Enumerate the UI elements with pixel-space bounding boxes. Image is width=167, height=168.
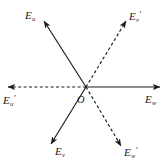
vector-label-e-u-prime-left: Eu′ (3, 94, 15, 107)
origin-label: O (77, 95, 85, 106)
vector-label-e-w-prime-lower-right: Ew′ (124, 146, 138, 159)
vector-label-e-w-right: Ew (145, 94, 156, 106)
vector-line-e-v-prime-upper-right (86, 21, 126, 87)
vector-canvas (0, 0, 167, 168)
vector-line-e-w-prime-lower-right (86, 87, 121, 146)
vector-diagram: Eu Ev′ Eu′ Ew Ev Ew′ O (0, 0, 167, 168)
vector-label-e-v-lower-left: Ev (55, 146, 65, 158)
vector-line-e-u-upper-left (44, 21, 86, 87)
vector-label-e-v-prime-upper-right: Ev′ (129, 10, 141, 23)
vector-label-e-u-upper-left: Eu (25, 10, 35, 22)
